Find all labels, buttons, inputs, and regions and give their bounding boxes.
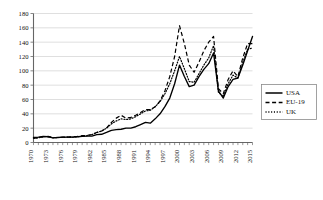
- x-axis-tick-label: 2000: [174, 149, 181, 163]
- x-axis-tick-label: 1991: [130, 150, 137, 163]
- x-axis-tick-label: 2009: [217, 149, 224, 163]
- x-axis-tick-label: 2006: [203, 149, 210, 163]
- chart-canvas: 0204060801001201401601801970197319761979…: [0, 0, 323, 200]
- x-axis-tick-label: 2015: [247, 149, 254, 163]
- legend-label-eu-19: EU-19: [286, 98, 305, 106]
- y-axis-tick-label: 140: [19, 39, 30, 46]
- y-axis-tick-label: 80: [22, 82, 29, 89]
- series-line-usa: [34, 36, 253, 137]
- x-axis-tick-label: 1982: [86, 150, 93, 163]
- y-axis-tick-label: 120: [19, 53, 30, 60]
- y-axis-tick-label: 180: [19, 10, 30, 17]
- legend-label-usa: USA: [286, 89, 300, 97]
- legend-label-uk: UK: [286, 108, 296, 116]
- y-axis-tick-label: 100: [19, 67, 30, 74]
- x-axis-tick-label: 1973: [42, 149, 49, 163]
- y-axis-tick-label: 60: [22, 96, 29, 103]
- x-axis-tick-label: 1994: [144, 149, 151, 163]
- x-axis-tick-label: 2012: [232, 150, 239, 163]
- x-axis-tick-label: 1976: [57, 149, 64, 163]
- y-axis-tick-label: 160: [19, 24, 30, 31]
- x-axis-tick-label: 1988: [115, 149, 122, 163]
- y-axis-tick-label: 40: [22, 110, 29, 117]
- x-axis-tick-label: 2003: [188, 149, 195, 163]
- series-line-eu-19: [34, 26, 253, 139]
- x-axis-tick-label: 1985: [101, 149, 108, 163]
- x-axis-tick-label: 1970: [28, 149, 35, 163]
- x-axis-tick-label: 1979: [71, 149, 78, 163]
- y-axis-tick-label: 0: [25, 139, 29, 146]
- y-axis-tick-label: 20: [22, 125, 29, 132]
- x-axis-tick-label: 1997: [159, 149, 166, 163]
- line-chart: 0204060801001201401601801970197319761979…: [0, 0, 323, 200]
